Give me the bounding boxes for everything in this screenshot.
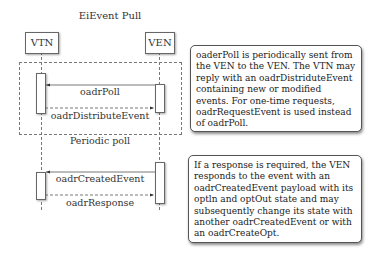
note-created-event-text: If a response is required, the VEN respo… [194, 160, 356, 240]
note-created-event: If a response is required, the VEN respo… [188, 155, 362, 243]
message-label-oadr-created-event: oadrCreatedEvent [45, 173, 155, 184]
message-label-oadr-distribute-event: oadrDistributeEvent [40, 110, 160, 121]
note-poll-text: oaderPoll is periodically sent from the … [196, 50, 356, 130]
message-label-oadr-poll: oadrPoll [50, 86, 150, 97]
message-label-oadr-response: oadrResponse [45, 197, 155, 208]
note-poll: oaderPoll is periodically sent from the … [190, 45, 362, 132]
